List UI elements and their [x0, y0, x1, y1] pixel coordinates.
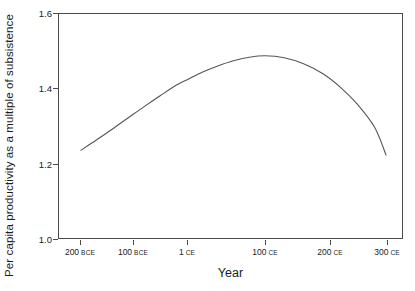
x-axis-tick-era: CE: [388, 249, 399, 256]
x-axis-tick-year: 100: [118, 247, 132, 257]
x-axis-tick-label: 300 CE: [374, 247, 400, 257]
y-axis-tick-labels: 1.61.41.21.0: [10, 0, 52, 291]
x-axis-tick-label: 100 CE: [252, 247, 278, 257]
x-axis-tick-year: 300: [374, 247, 388, 257]
y-axis-tick-label: 1.2: [16, 158, 52, 169]
y-axis-tick-mark: [53, 239, 58, 240]
y-axis-tick-mark: [53, 88, 58, 89]
x-axis-title: Year: [58, 266, 403, 280]
productivity-curve: [59, 14, 402, 238]
x-axis-tick-mark: [330, 240, 331, 245]
x-axis-tick-mark: [187, 240, 188, 245]
x-axis-tick-mark: [133, 240, 134, 245]
x-axis-tick-label: 1 CE: [179, 247, 195, 257]
x-axis-tick-year: 200: [317, 247, 331, 257]
x-axis-tick-year: 200: [65, 247, 79, 257]
plot-area: [58, 13, 403, 239]
x-axis-tick-year: 100: [252, 247, 266, 257]
y-axis-tick-label: 1.4: [16, 83, 52, 94]
chart-figure: Per capita productivity as a multiple of…: [0, 0, 415, 291]
y-axis-tick-mark: [53, 164, 58, 165]
x-axis-tick-mark: [387, 240, 388, 245]
x-axis-tick-mark: [80, 240, 81, 245]
y-axis-tick-label: 1.6: [16, 8, 52, 19]
x-axis-tick-era: CE: [184, 249, 195, 256]
x-axis-tick-label: 100 BCE: [118, 247, 148, 257]
x-axis-tick-mark: [265, 240, 266, 245]
x-axis-tick-era: BCE: [132, 249, 148, 256]
x-axis-tick-label: 200 CE: [317, 247, 343, 257]
y-axis-tick-mark: [53, 13, 58, 14]
x-axis-tick-era: CE: [266, 249, 277, 256]
x-axis-tick-label: 200 BCE: [65, 247, 95, 257]
x-axis-tick-era: CE: [331, 249, 342, 256]
x-axis-tick-era: BCE: [79, 249, 95, 256]
y-axis-tick-label: 1.0: [16, 234, 52, 245]
